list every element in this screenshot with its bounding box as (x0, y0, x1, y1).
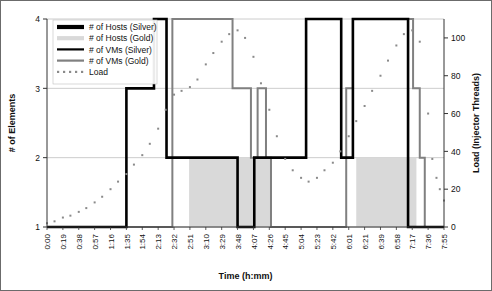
y-tick-label: 4 (35, 14, 40, 24)
chart-figure: 1234 020406080100 0:000:190:380:571:161:… (0, 0, 492, 291)
load-dot (427, 113, 429, 115)
load-dot (276, 135, 278, 137)
x-tick-label: 6:39 (377, 233, 386, 249)
y2-tick-label: 20 (451, 184, 461, 194)
load-dot (364, 105, 366, 107)
y-tick-label: 3 (35, 84, 40, 94)
x-tick-label: 4:45 (281, 233, 290, 249)
load-dot (228, 33, 230, 35)
x-tick-label: 3:29 (218, 233, 227, 249)
x-tick-label: 1:35 (123, 233, 132, 249)
load-dot (62, 217, 64, 219)
load-dot (323, 169, 325, 171)
load-dot (237, 29, 239, 31)
legend-swatch-dot (75, 71, 77, 73)
x-tick-label: 2:51 (186, 233, 195, 249)
load-dot (348, 135, 350, 137)
load-dot (141, 154, 143, 156)
y2-tick-label: 40 (451, 147, 461, 157)
load-dot (268, 109, 270, 111)
legend-label: # of Hosts (Silver) (89, 22, 157, 32)
load-dot (439, 188, 441, 190)
load-dot (196, 79, 198, 81)
x-tick-label: 0:38 (75, 233, 84, 249)
load-dot (339, 150, 341, 152)
load-dot (189, 86, 191, 88)
x-tick-label: 5:04 (297, 233, 306, 249)
legend-swatch-dot (81, 71, 83, 73)
legend-label: Load (89, 67, 108, 77)
load-dot (395, 44, 397, 46)
load-dot (125, 173, 127, 175)
load-dot (332, 162, 334, 164)
x-tick-label: 3:10 (202, 233, 211, 249)
x-tick-label: 6:01 (345, 233, 354, 249)
y2-tick-label: 80 (451, 71, 461, 81)
load-dot (205, 63, 207, 65)
x-tick-label: 0:00 (43, 233, 52, 249)
x-tick-label: 7:36 (424, 233, 433, 249)
load-dot (435, 177, 437, 179)
load-dot (284, 158, 286, 160)
load-dot (173, 94, 175, 96)
y2-tick-label: 60 (451, 109, 461, 119)
load-dot (292, 169, 294, 171)
y-axis-ticks: 1234 (35, 14, 47, 232)
x-tick-label: 5:23 (313, 233, 322, 249)
load-dot (300, 177, 302, 179)
load-dot (355, 120, 357, 122)
load-dot (69, 215, 71, 217)
load-dot (117, 181, 119, 183)
x-tick-label: 2:13 (154, 233, 163, 249)
load-dot (371, 90, 373, 92)
chart-legend: # of Hosts (Silver)# of Hosts (Gold)# of… (53, 20, 157, 84)
load-dot (316, 177, 318, 179)
x-tick-label: 6:58 (393, 233, 402, 249)
y-tick-label: 2 (35, 153, 40, 163)
load-dot (85, 207, 87, 209)
x-tick-label: 7:17 (408, 233, 417, 249)
y2-axis-ticks: 020406080100 (444, 33, 465, 232)
chart-stage: 1234 020406080100 0:000:190:380:571:161:… (1, 1, 491, 290)
x-tick-label: 1:54 (138, 233, 147, 249)
x-tick-label: 7:55 (440, 233, 449, 249)
x-tick-label: 1:16 (107, 233, 116, 249)
performance-chart: 1234 020406080100 0:000:190:380:571:161:… (1, 1, 491, 290)
x-tick-label: 2:32 (170, 233, 179, 249)
load-dot (181, 90, 183, 92)
legend-label: # of VMs (Silver) (89, 45, 152, 55)
legend-swatch-dot (69, 71, 71, 73)
y2-tick-label: 100 (451, 33, 465, 43)
load-dot (431, 158, 433, 160)
load-dot (149, 143, 151, 145)
x-tick-label: 6:21 (361, 233, 370, 249)
load-dot (308, 181, 310, 183)
load-dot (244, 37, 246, 39)
x-tick-label: 5:42 (329, 233, 338, 249)
x-axis-title: Time (h:mm) (219, 271, 273, 281)
x-tick-label: 4:07 (250, 233, 259, 249)
x-tick-label: 3:48 (234, 233, 243, 249)
load-dot (212, 52, 214, 54)
load-dot (260, 82, 262, 84)
load-dot (110, 188, 112, 190)
y-tick-label: 1 (35, 222, 40, 232)
legend-swatch-dot (57, 71, 59, 73)
legend-label: # of Hosts (Gold) (89, 33, 153, 43)
load-dot (387, 60, 389, 62)
y-axis-title: # of Elements (7, 94, 17, 153)
load-dot (252, 56, 254, 58)
load-dot (221, 41, 223, 43)
load-dot (157, 128, 159, 130)
load-dot (78, 211, 80, 213)
y2-tick-label: 0 (451, 222, 456, 232)
legend-swatch-dot (63, 71, 65, 73)
x-tick-label: 0:57 (91, 233, 100, 249)
x-tick-label: 0:19 (59, 233, 68, 249)
load-dot (101, 196, 103, 198)
load-dot (133, 164, 135, 166)
load-dot (379, 75, 381, 77)
x-tick-label: 4:26 (266, 233, 275, 249)
y2-axis-title: Load (Injector Threads) (471, 73, 481, 173)
load-dot (411, 29, 413, 31)
